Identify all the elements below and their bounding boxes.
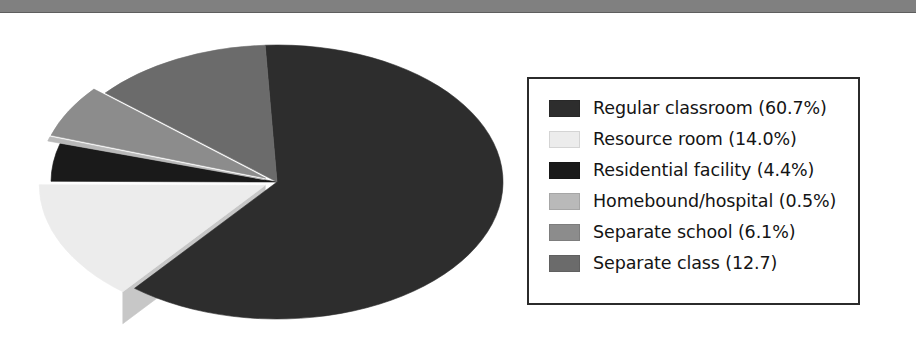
- legend-swatch-icon: [549, 224, 580, 241]
- legend-item-homebound-hospital[interactable]: Homebound/hospital (0.5%): [549, 186, 858, 217]
- pie-slice-tops: [39, 45, 503, 319]
- legend-item-separate-school[interactable]: Separate school (6.1%): [549, 217, 858, 248]
- legend-swatch-icon: [549, 162, 580, 179]
- legend-swatch-icon: [549, 193, 580, 210]
- legend-item-residential-facility[interactable]: Residential facility (4.4%): [549, 155, 858, 186]
- horizontal-rule: [0, 0, 916, 13]
- legend-item-label: Separate class (12.7): [593, 255, 777, 273]
- chart-page: Regular classroom (60.7%) Resource room …: [0, 0, 919, 361]
- legend-item-label: Homebound/hospital (0.5%): [593, 193, 836, 211]
- legend-item-label: Separate school (6.1%): [593, 224, 795, 242]
- legend-swatch-icon: [549, 131, 580, 148]
- legend-swatch-icon: [549, 255, 580, 272]
- pie-chart-svg: [38, 32, 522, 350]
- pie-chart: [38, 32, 522, 350]
- legend-item-label: Regular classroom (60.7%): [593, 100, 827, 118]
- legend-item-regular-classroom[interactable]: Regular classroom (60.7%): [549, 93, 858, 124]
- legend-item-label: Resource room (14.0%): [593, 131, 797, 149]
- legend-swatch-icon: [549, 100, 580, 117]
- chart-legend: Regular classroom (60.7%) Resource room …: [527, 77, 860, 305]
- legend-item-separate-class[interactable]: Separate class (12.7): [549, 248, 858, 279]
- legend-item-resource-room[interactable]: Resource room (14.0%): [549, 124, 858, 155]
- legend-item-label: Residential facility (4.4%): [593, 162, 814, 180]
